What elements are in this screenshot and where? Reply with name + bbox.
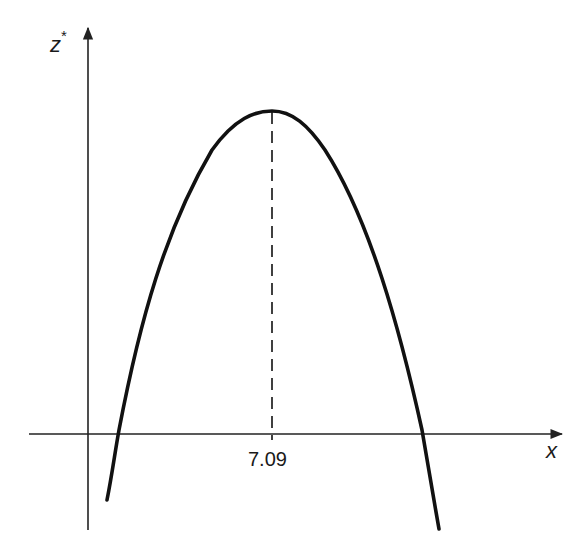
x-axis-label: x [546, 438, 557, 464]
x-tick-label-peak: 7.09 [248, 448, 287, 471]
y-axis-label: z* [50, 30, 67, 58]
chart-canvas [0, 0, 587, 557]
chart: z* x 7.09 [0, 0, 587, 557]
